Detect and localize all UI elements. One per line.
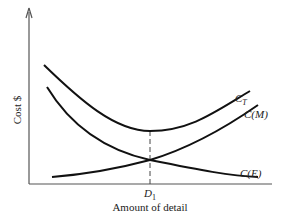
curve-c-e — [52, 105, 258, 177]
label-cm: C(M) — [244, 108, 268, 121]
y-axis-title: Cost $ — [11, 95, 23, 124]
curve-c-m — [47, 87, 258, 177]
x-tick-d1: D1 — [143, 187, 156, 202]
x-axis-title: Amount of detail — [112, 201, 187, 213]
cost-vs-detail-chart: CT C(M) C(E) D1 Amount of detail Cost $ — [0, 0, 284, 222]
label-ce: C(E) — [240, 167, 262, 180]
